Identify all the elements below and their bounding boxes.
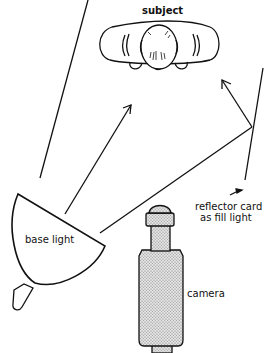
camera-label: camera — [187, 288, 225, 299]
subject-figure — [100, 21, 219, 70]
reflector-label-line1: reflector card — [195, 201, 262, 212]
base-light-label: base light — [25, 234, 74, 245]
base-light-lamp — [12, 194, 105, 310]
subject-label: subject — [142, 5, 183, 16]
camera-body — [139, 206, 183, 353]
light-beam-edge-line — [40, 0, 88, 178]
reflector-label-line2: as fill light — [200, 212, 252, 223]
lighting-diagram — [0, 0, 265, 353]
reflector-card-line — [245, 68, 263, 180]
label-pointer-arrow — [230, 189, 242, 195]
key-light-arrow — [65, 105, 131, 214]
reflected-fill-arrow — [222, 80, 252, 127]
